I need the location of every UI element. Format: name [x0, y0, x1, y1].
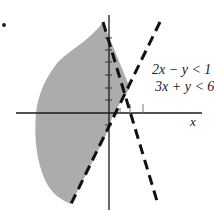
inequality-graph	[0, 0, 214, 213]
inequality-label-2: 3x + y < 6	[155, 79, 214, 95]
inequality-label-1: 2x − y < 1	[152, 62, 211, 78]
x-axis-ticks	[120, 104, 143, 113]
x-axis-label: x	[190, 114, 196, 130]
